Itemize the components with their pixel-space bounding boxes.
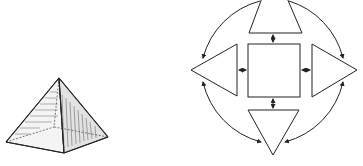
figure-canvas — [0, 0, 363, 166]
concept-diagram — [191, 0, 357, 155]
pyramid-left-face — [6, 78, 64, 153]
triangle-left — [191, 44, 237, 96]
pyramid-right-face — [59, 78, 108, 153]
triangle-bottom — [248, 110, 299, 155]
center-square — [248, 44, 300, 97]
triangle-top — [249, 0, 302, 33]
pyramid-illustration — [6, 78, 108, 153]
triangle-right — [312, 44, 357, 97]
